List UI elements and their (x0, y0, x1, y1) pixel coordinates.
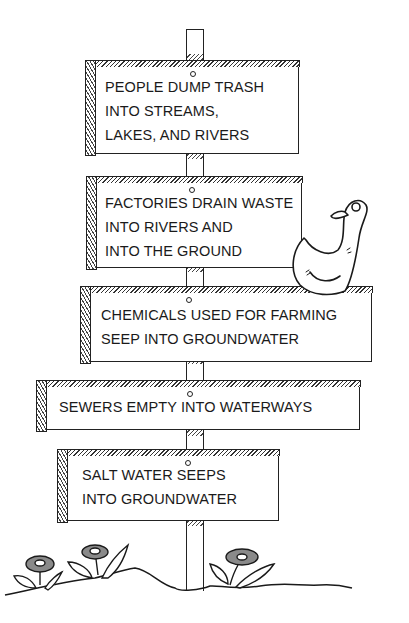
signpost-illustration: PEOPLE DUMP TRASH INTO STREAMS, LAKES, A… (0, 0, 409, 623)
flower-icon (210, 549, 274, 588)
flower-icon (68, 545, 128, 578)
duck-icon (0, 0, 409, 623)
